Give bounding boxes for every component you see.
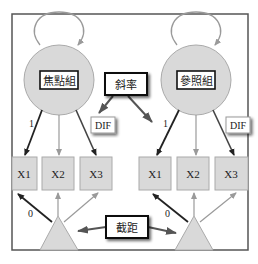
dif-diagram: 焦點組 參照組 斜率 截距 DIF DIF 1 1 0 0 X1 X2 X3 X… — [0, 0, 258, 264]
reference-intercept-x3 — [200, 193, 236, 222]
focal-loading-label: 1 — [29, 118, 34, 129]
reference-loading-label: 1 — [163, 118, 168, 129]
reference-x2-label: X2 — [186, 168, 199, 180]
slope-callout-label: 斜率 — [115, 78, 137, 92]
focal-dif-label: DIF — [95, 120, 112, 131]
reference-x1-label: X1 — [148, 168, 161, 180]
intercept-arrow-left — [78, 227, 106, 231]
focal-x2-label: X2 — [51, 168, 64, 180]
slope-arrow-left — [99, 96, 113, 113]
focal-x3-label: X3 — [89, 168, 103, 180]
reference-intercept-x1 — [153, 194, 188, 222]
focal-intercept-triangle — [40, 216, 78, 250]
reference-intercept-label: 0 — [165, 208, 170, 219]
focal-intercept-x1 — [18, 194, 52, 222]
reference-variance-loop — [171, 12, 220, 45]
reference-dif-label: DIF — [230, 120, 247, 131]
reference-loading-x1 — [157, 110, 179, 155]
focal-group-label: 焦點組 — [43, 75, 76, 88]
slope-arrow-right — [128, 96, 152, 122]
intercept-arrow-right — [148, 227, 176, 233]
focal-loading-x1 — [25, 110, 42, 155]
intercept-callout-label: 截距 — [116, 221, 138, 235]
focal-variance-loop — [34, 12, 83, 45]
focal-intercept-x3 — [64, 193, 98, 222]
focal-intercept-label: 0 — [28, 208, 33, 219]
reference-intercept-triangle — [175, 216, 213, 250]
reference-group-label: 參照組 — [180, 74, 213, 88]
focal-x1-label: X1 — [17, 168, 30, 180]
reference-x3-label: X3 — [224, 168, 238, 180]
